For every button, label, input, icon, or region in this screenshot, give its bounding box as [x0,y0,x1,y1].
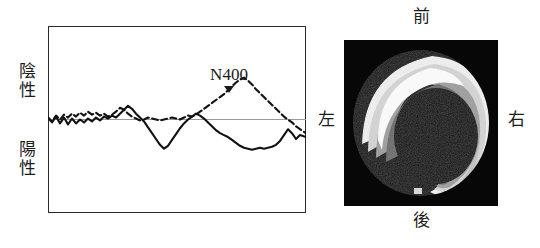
erp-trace-dashed [48,78,306,134]
y-axis-label-negative-line2: 性 [10,81,44,100]
orientation-label-right: 右 [502,109,530,129]
topographic-map-svg [344,40,498,206]
topographic-map-panel: 前 左 右 後 [312,0,540,248]
orientation-label-left: 左 [312,109,340,129]
n400-down-triangle-icon [224,86,234,93]
y-axis-label-positive-line2: 性 [10,159,44,178]
erp-waveform-panel: 陰 性 陽 性 N400 [0,0,312,248]
y-axis-label-positive: 陽 性 [10,140,44,178]
topographic-scalp-map [344,40,498,206]
y-axis-label-positive-line1: 陽 [10,140,44,159]
erp-plot-svg [48,26,306,213]
erp-trace-solid [48,106,306,150]
map-core-dark [394,88,478,184]
n400-label: N400 [195,66,263,84]
orientation-label-back: 後 [400,210,442,230]
erp-n400-figure: 陰 性 陽 性 N400 前 左 右 後 [0,0,540,248]
y-axis-label-negative: 陰 性 [10,62,44,100]
y-axis-label-negative-line1: 陰 [10,62,44,81]
orientation-label-front: 前 [400,6,442,26]
map-bottom-marker [414,188,422,194]
